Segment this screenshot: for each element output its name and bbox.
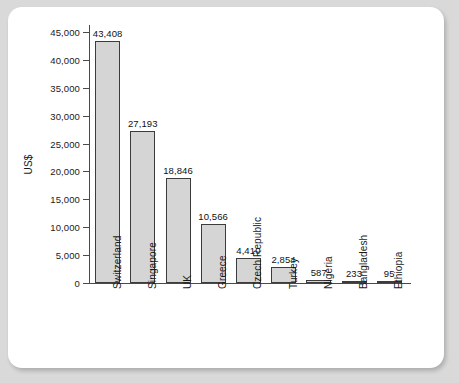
y-axis-tick-label: 10,000 <box>50 222 80 233</box>
y-axis-tick-label: 15,000 <box>50 194 80 205</box>
x-axis-category-label: Bangladesh <box>358 235 369 289</box>
y-axis-tick-label: 20,000 <box>50 166 80 177</box>
x-axis-category-label: Greece <box>217 255 228 289</box>
y-axis-tick <box>83 227 89 228</box>
y-axis-tick <box>83 60 89 61</box>
y-axis-tick-label: 0 <box>75 278 80 289</box>
y-axis-tick <box>83 171 89 172</box>
chart-card: US$ 45,00040,00035,00030,00025,00020,000… <box>8 7 444 368</box>
y-axis-tick-label: 35,000 <box>50 82 80 93</box>
y-axis-tick-label: 30,000 <box>50 110 80 121</box>
y-axis-tick-label: 45,000 <box>50 27 80 38</box>
y-axis-tick <box>83 88 89 89</box>
y-axis-tick <box>83 199 89 200</box>
x-axis-category-label: UK <box>182 275 193 289</box>
y-axis-tick <box>83 116 89 117</box>
y-axis-tick <box>83 144 89 145</box>
y-axis-tick-label: 25,000 <box>50 138 80 149</box>
bar-value-label: 18,846 <box>156 165 200 176</box>
y-axis-tick <box>83 255 89 256</box>
bar-value-label: 10,566 <box>191 211 235 222</box>
bar <box>166 178 191 283</box>
x-axis-category-label: Ethiopia <box>393 252 404 289</box>
y-axis-line <box>89 25 90 284</box>
bar-chart-plot-area: US$ 45,00040,00035,00030,00025,00020,000… <box>8 7 444 368</box>
x-axis-category-label: Czech Republic <box>252 217 263 289</box>
x-axis-category-label: Switzerland <box>112 236 123 289</box>
x-axis-category-label: Singapore <box>147 242 158 289</box>
bar-value-label: 43,408 <box>86 28 130 39</box>
y-axis-title: US$ <box>23 135 34 195</box>
y-axis-tick <box>83 283 89 284</box>
x-axis-category-label: Turkey <box>288 258 299 289</box>
x-axis-category-label: Nigeria <box>323 256 334 289</box>
figure-root: US$ 45,00040,00035,00030,00025,00020,000… <box>0 0 459 383</box>
y-axis-tick-label: 40,000 <box>50 54 80 65</box>
bar-value-label: 95 <box>367 268 411 279</box>
y-axis-tick-label: 5,000 <box>56 250 80 261</box>
bar-value-label: 27,193 <box>121 118 165 129</box>
